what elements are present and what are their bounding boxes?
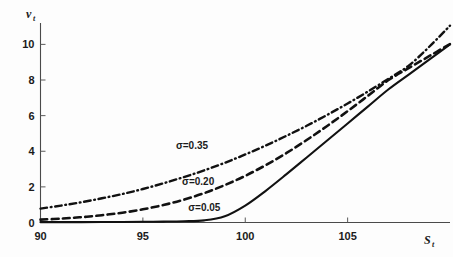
y-tick-label: 10 <box>22 38 34 50</box>
y-tick-group: 0246810 <box>22 38 45 228</box>
x-tick-label: 95 <box>137 230 149 242</box>
x-tick-label: 100 <box>236 230 254 242</box>
series-curve <box>41 44 451 222</box>
y-axis-title: v t <box>26 7 36 23</box>
x-axis-title-base: S <box>424 233 431 247</box>
series-curve <box>41 26 451 209</box>
series-annotation-label: σ=0.35 <box>176 140 209 151</box>
chart-figure: 0246810 9095100105 σ=0.35σ=0.20σ=0.05 v … <box>0 0 453 257</box>
y-tick-label: 4 <box>28 145 35 157</box>
x-axis-title-subscript: t <box>432 240 435 249</box>
series-annotations: σ=0.35σ=0.20σ=0.05 <box>176 140 221 214</box>
x-axis-title: S t <box>424 233 435 249</box>
series-annotation-label: σ=0.05 <box>188 202 221 213</box>
y-axis-title-subscript: t <box>33 14 36 23</box>
y-tick-label: 2 <box>28 181 34 193</box>
y-tick-label: 6 <box>28 110 34 122</box>
series-curve <box>41 44 451 220</box>
y-axis-title-base: v <box>26 7 32 21</box>
x-tick-label: 90 <box>34 230 46 242</box>
y-tick-label: 8 <box>28 74 34 86</box>
series-curves <box>41 26 451 222</box>
plot-axes <box>41 23 451 223</box>
line-chart: 0246810 9095100105 σ=0.35σ=0.20σ=0.05 v … <box>0 0 453 257</box>
series-annotation-label: σ=0.20 <box>182 176 215 187</box>
y-tick-label: 0 <box>28 217 34 229</box>
x-tick-label: 105 <box>338 230 356 242</box>
